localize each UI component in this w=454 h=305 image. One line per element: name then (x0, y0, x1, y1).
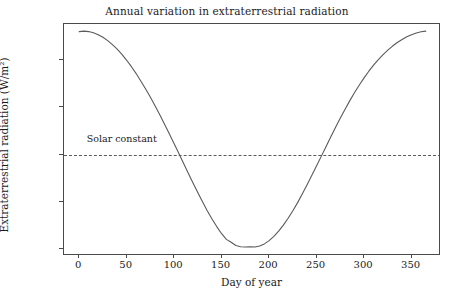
x-tick (78, 254, 79, 258)
x-tick-label: 50 (106, 259, 146, 270)
x-tick-label: 200 (248, 259, 288, 270)
y-tick (59, 248, 63, 249)
x-tick (268, 254, 269, 258)
y-tick (59, 201, 63, 202)
x-tick-label: 0 (58, 259, 98, 270)
y-tick (59, 106, 63, 107)
x-tick (316, 254, 317, 258)
x-tick-label: 150 (201, 259, 241, 270)
x-tick-label: 100 (153, 259, 193, 270)
solar-constant-line (64, 155, 440, 156)
chart-figure: Annual variation in extraterrestrial rad… (0, 0, 454, 305)
x-tick (126, 254, 127, 258)
x-tick-label: 350 (391, 259, 431, 270)
y-axis-title: Extraterrestrial radiation (W/m²) (0, 0, 10, 305)
x-tick (221, 254, 222, 258)
y-tick (59, 59, 63, 60)
chart-title: Annual variation in extraterrestrial rad… (0, 5, 454, 17)
plot-area: Solar constant (63, 23, 440, 255)
solar-constant-label: Solar constant (87, 133, 157, 144)
x-tick (363, 254, 364, 258)
x-tick (411, 254, 412, 258)
x-tick-label: 300 (343, 259, 383, 270)
x-tick-label: 250 (296, 259, 336, 270)
x-tick (173, 254, 174, 258)
x-axis-title: Day of year (63, 276, 440, 288)
y-tick (59, 154, 63, 155)
